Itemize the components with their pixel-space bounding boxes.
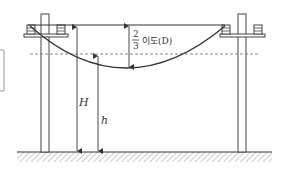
insulator-icon bbox=[57, 25, 65, 34]
insulator-icon bbox=[222, 25, 230, 34]
label-two-thirds-sag: 2 3 이도(D) bbox=[132, 29, 172, 51]
label-h: h bbox=[101, 114, 108, 127]
label-H: H bbox=[78, 96, 89, 109]
power-line-sag-diagram: H h 2 3 이도(D) bbox=[0, 0, 285, 174]
ground bbox=[17, 152, 272, 162]
partial-box-edge bbox=[0, 50, 4, 91]
sag-label: 이도(D) bbox=[142, 36, 172, 46]
fraction-numerator: 2 bbox=[133, 29, 139, 39]
insulator-icon bbox=[254, 25, 262, 34]
fraction-denominator: 3 bbox=[133, 41, 139, 51]
